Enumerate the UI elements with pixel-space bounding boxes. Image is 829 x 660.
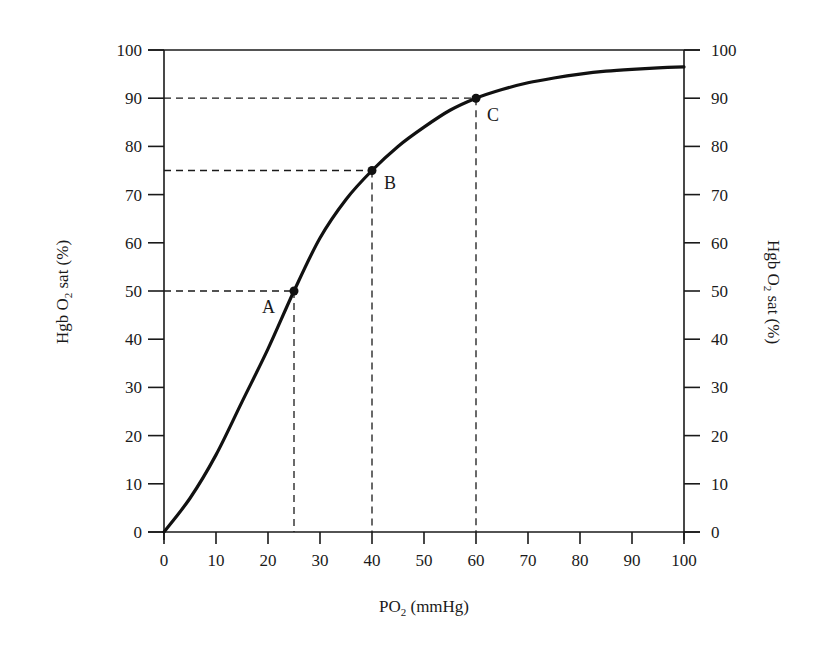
right-y-tick-label: 50 bbox=[711, 282, 728, 301]
x-tick-label: 10 bbox=[208, 551, 225, 570]
left-y-tick-label: 0 bbox=[134, 523, 143, 542]
x-tick-label: 80 bbox=[572, 551, 589, 570]
left-y-tick-label: 30 bbox=[125, 378, 142, 397]
x-tick-label: 40 bbox=[364, 551, 381, 570]
left-y-axis-title: Hgb O2 sat (%) bbox=[53, 240, 74, 344]
oxygen-dissociation-chart: 0102030405060708090100 01020304050607080… bbox=[0, 0, 829, 660]
point-b-marker bbox=[368, 166, 377, 175]
x-tick-label: 20 bbox=[260, 551, 277, 570]
dissociation-curve bbox=[164, 67, 684, 532]
left-y-tick-label: 60 bbox=[125, 234, 142, 253]
right-y-tick-label: 10 bbox=[711, 475, 728, 494]
x-tick-label: 70 bbox=[520, 551, 537, 570]
point-c-label: C bbox=[487, 105, 499, 125]
left-y-tick-label: 10 bbox=[125, 475, 142, 494]
right-y-tick-label: 40 bbox=[711, 330, 728, 349]
point-c-marker bbox=[472, 94, 481, 103]
right-y-tick-label: 30 bbox=[711, 378, 728, 397]
x-tick-label: 100 bbox=[671, 551, 697, 570]
x-tick-label: 50 bbox=[416, 551, 433, 570]
x-tick-label: 60 bbox=[468, 551, 485, 570]
left-y-tick-label: 80 bbox=[125, 137, 142, 156]
x-tick-label: 90 bbox=[624, 551, 641, 570]
left-y-tick-label: 50 bbox=[125, 282, 142, 301]
left-y-tick-label: 40 bbox=[125, 330, 142, 349]
marked-points bbox=[290, 94, 481, 296]
right-y-tick-label: 100 bbox=[711, 41, 737, 60]
left-y-tick-label: 100 bbox=[117, 41, 143, 60]
right-y-title-main: Hgb O bbox=[764, 240, 783, 286]
x-axis-title-unit: (mmHg) bbox=[406, 597, 469, 616]
point-b-label: B bbox=[384, 173, 396, 193]
right-y-title-unit: sat (%) bbox=[764, 291, 783, 344]
left-y-tick-label: 20 bbox=[125, 427, 142, 446]
plot-frame bbox=[148, 50, 700, 540]
right-y-axis-title: Hgb O2 sat (%) bbox=[762, 240, 783, 344]
right-y-tick-label: 80 bbox=[711, 137, 728, 156]
x-axis-title: PO2 (mmHg) bbox=[379, 597, 469, 618]
point-a-marker bbox=[290, 287, 299, 296]
point-a-label: A bbox=[262, 297, 275, 317]
right-y-tick-label: 90 bbox=[711, 89, 728, 108]
x-tick-label: 30 bbox=[312, 551, 329, 570]
right-y-tick-label: 70 bbox=[711, 186, 728, 205]
x-axis-title-main: PO bbox=[379, 597, 401, 616]
left-y-tick-label: 90 bbox=[125, 89, 142, 108]
x-axis-ticks: 0102030405060708090100 bbox=[160, 532, 697, 570]
left-y-tick-label: 70 bbox=[125, 186, 142, 205]
left-y-axis-ticks: 0102030405060708090100 bbox=[117, 41, 165, 542]
left-y-title-unit: sat (%) bbox=[53, 240, 72, 293]
right-y-tick-label: 60 bbox=[711, 234, 728, 253]
left-y-title-main: Hgb O bbox=[53, 298, 72, 344]
right-y-tick-label: 20 bbox=[711, 427, 728, 446]
x-tick-label: 0 bbox=[160, 551, 169, 570]
right-y-tick-label: 0 bbox=[711, 523, 720, 542]
right-y-axis-ticks: 0102030405060708090100 bbox=[684, 41, 737, 542]
